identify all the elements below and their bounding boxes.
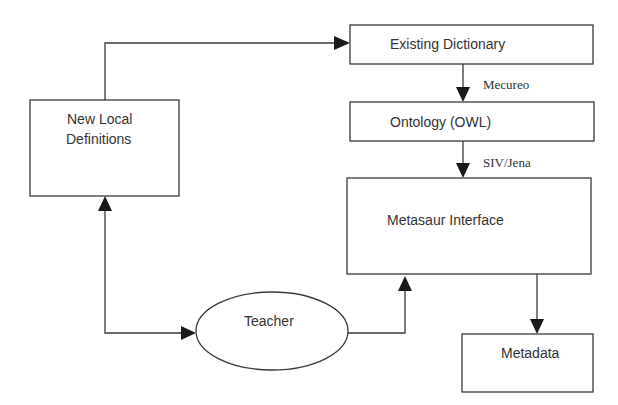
- edge-metasaur-to-metadata: [530, 274, 544, 334]
- arrowhead-down-icon: [456, 87, 470, 102]
- ontology-label: Ontology (OWL): [390, 114, 491, 130]
- arrowhead-up-icon: [398, 276, 412, 291]
- teacher-label: Teacher: [244, 313, 294, 329]
- edge-dictionary-to-ontology: Mecureo: [456, 64, 529, 102]
- node-existing-dictionary[interactable]: Existing Dictionary: [350, 25, 593, 64]
- arrowhead-right-icon: [181, 326, 196, 340]
- arrowhead-down-icon: [530, 319, 544, 334]
- edge-teacher-newdefs: [98, 196, 196, 340]
- new-local-definitions-label-line2: Definitions: [66, 131, 131, 147]
- edge-newdefs-to-dictionary: [105, 36, 350, 100]
- arrowhead-right-icon: [334, 36, 350, 50]
- node-new-local-definitions[interactable]: New Local Definitions: [30, 100, 179, 196]
- node-teacher[interactable]: Teacher: [196, 292, 348, 370]
- arrowhead-up-icon: [98, 196, 112, 211]
- new-local-definitions-label-line1: New Local: [67, 111, 132, 127]
- edge-teacher-to-metasaur: [348, 276, 412, 333]
- node-ontology[interactable]: Ontology (OWL): [350, 102, 594, 141]
- edge-label-mecureo: Mecureo: [483, 77, 529, 92]
- arrowhead-down-icon: [456, 163, 470, 178]
- node-metadata[interactable]: Metadata: [462, 334, 593, 392]
- metasaur-interface-label: Metasaur Interface: [387, 212, 504, 228]
- edge-ontology-to-metasaur: SIV/Jena: [456, 141, 531, 178]
- architecture-diagram: Existing Dictionary Mecureo Ontology (OW…: [0, 0, 618, 405]
- metadata-label: Metadata: [501, 345, 560, 361]
- edge-label-siv-jena: SIV/Jena: [483, 155, 531, 170]
- node-metasaur-interface[interactable]: Metasaur Interface: [347, 178, 591, 274]
- existing-dictionary-label: Existing Dictionary: [390, 36, 505, 52]
